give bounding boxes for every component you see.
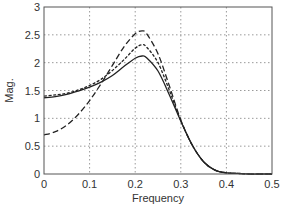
series-dashed-line (44, 31, 272, 174)
x-tick-label: 0.5 (264, 178, 279, 190)
y-tick-label: 2 (34, 57, 40, 69)
y-axis-ticks: 00.511.522.53 (25, 1, 40, 180)
x-tick-label: 0.1 (82, 178, 97, 190)
x-axis-ticks: 00.10.20.30.40.5 (41, 178, 280, 190)
y-tick-label: 1 (34, 112, 40, 124)
y-axis-label: Mag. (3, 78, 15, 102)
y-tick-label: 0 (34, 168, 40, 180)
y-tick-label: 2.5 (25, 29, 40, 41)
x-axis-label: Frequency (132, 192, 184, 204)
y-tick-label: 1.5 (25, 85, 40, 97)
x-tick-label: 0.4 (219, 178, 234, 190)
data-series (44, 31, 272, 174)
x-tick-label: 0.2 (128, 178, 143, 190)
y-tick-label: 0.5 (25, 140, 40, 152)
x-tick-label: 0.3 (173, 178, 188, 190)
x-tick-label: 0 (41, 178, 47, 190)
y-tick-label: 3 (34, 1, 40, 13)
series-dotted-line (44, 45, 272, 174)
frequency-magnitude-chart: 00.10.20.30.40.5 00.511.522.53 Frequency… (0, 0, 283, 209)
